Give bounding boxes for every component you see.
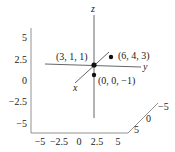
z-tick: −5 (16, 118, 27, 129)
z-tick: 2.5 (15, 54, 28, 65)
point-6-4-3 (109, 55, 113, 59)
y-tick: 5 (116, 136, 121, 147)
point-0-0-neg1 (92, 73, 96, 77)
plot-box (31, 28, 158, 133)
y-tick: 2.5 (91, 136, 104, 147)
x-axis-label: x (72, 82, 78, 93)
point-label-3-1-1: (3, 1, 1) (56, 51, 88, 63)
x-tick-labels: 5 0 −5 (134, 101, 169, 135)
y-tick: −5 (35, 136, 46, 147)
point-label-0-0-neg1: (0, 0, −1) (98, 75, 135, 87)
z-tick: −2.5 (9, 96, 27, 107)
y-axis-label: y (142, 61, 148, 72)
3d-scatter-plot: z y x (3, 1, 1) (6, 4, 3) (0, 0, −1) 5 2… (0, 0, 175, 152)
depth-box-edge (128, 103, 158, 133)
x-tick: 0 (146, 113, 151, 124)
z-tick: 0 (22, 75, 27, 86)
z-tick-labels: 5 2.5 0 −2.5 −5 (9, 32, 27, 129)
y-tick-labels: −5 −2.5 0 2.5 5 (35, 136, 121, 147)
point-label-6-4-3: (6, 4, 3) (118, 50, 150, 62)
y-tick: −2.5 (50, 136, 68, 147)
x-tick: −5 (158, 101, 169, 112)
x-tick: 5 (134, 124, 139, 135)
point-3-1-1 (91, 62, 96, 67)
z-axis-label: z (90, 3, 95, 14)
y-tick: 0 (77, 136, 82, 147)
z-tick: 5 (22, 32, 27, 43)
